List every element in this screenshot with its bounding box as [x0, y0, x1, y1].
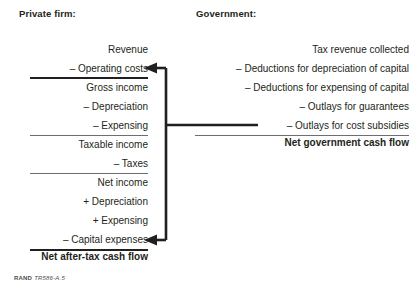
- cash-flow-connector: [0, 0, 418, 299]
- arrowhead-operating-costs: [144, 63, 157, 74]
- figure-credit: RANDTR586-A.5: [14, 275, 65, 281]
- credit-organization: RAND: [14, 275, 32, 281]
- credit-identifier: TR586-A.5: [34, 275, 65, 281]
- figure-canvas: Private firm: Government: Revenue – Oper…: [0, 0, 418, 299]
- arrowhead-capital-expenses: [144, 235, 157, 246]
